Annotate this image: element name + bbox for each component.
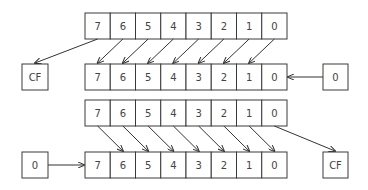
shr-result-bit-4: 4 bbox=[161, 152, 186, 178]
shl-result-bit-2-label: 2 bbox=[221, 72, 227, 83]
arrow-shl-bit bbox=[173, 39, 198, 63]
shl-source-bit-5: 5 bbox=[136, 13, 161, 39]
shr-source-bit-1: 1 bbox=[237, 100, 262, 126]
shl-source-bit-0-label: 0 bbox=[271, 21, 277, 32]
shl-result-bit-0: 0 bbox=[262, 64, 287, 90]
shr-source-bit-7-label: 7 bbox=[94, 108, 100, 119]
shl-source-bit-5-label: 5 bbox=[145, 21, 151, 32]
shr-fill-zero-label: 0 bbox=[32, 160, 38, 171]
shl-result-bit-7: 7 bbox=[85, 64, 110, 90]
shl-source-bit-0: 0 bbox=[262, 13, 287, 39]
shl-source-bit-2: 2 bbox=[211, 13, 236, 39]
arrow-shr-lsb-to-cf bbox=[274, 126, 335, 151]
shr-result-bit-0: 0 bbox=[262, 152, 287, 178]
arrow-shl-msb-to-cf bbox=[35, 39, 98, 63]
shr-result-bit-1-label: 1 bbox=[246, 160, 252, 171]
shr-result-bit-0-label: 0 bbox=[271, 160, 277, 171]
arrow-shl-bit bbox=[224, 39, 249, 63]
shl-result-bit-3-label: 3 bbox=[195, 72, 201, 83]
shl-source-bit-7: 7 bbox=[85, 13, 110, 39]
arrow-shr-bit bbox=[123, 126, 148, 151]
shl-source-bit-2-label: 2 bbox=[221, 21, 227, 32]
shl-result-bit-5-label: 5 bbox=[145, 72, 151, 83]
arrow-shr-bit bbox=[173, 126, 198, 151]
shr-result-bit-6-label: 6 bbox=[120, 160, 126, 171]
shl-result-bit-3: 3 bbox=[186, 64, 211, 90]
shr-result-bit-2: 2 bbox=[211, 152, 236, 178]
arrow-shr-bit bbox=[148, 126, 173, 151]
shl-source-bit-3-label: 3 bbox=[195, 21, 201, 32]
arrow-shr-bit bbox=[224, 126, 249, 151]
shr-result-bit-3: 3 bbox=[186, 152, 211, 178]
shr-source-bit-4: 4 bbox=[161, 100, 186, 126]
arrow-shl-bit bbox=[199, 39, 224, 63]
shl-result-bit-1-label: 1 bbox=[246, 72, 252, 83]
shl-source-bit-6-label: 6 bbox=[120, 21, 126, 32]
shr-source-bit-2-label: 2 bbox=[221, 108, 227, 119]
shr-result-bit-2-label: 2 bbox=[221, 160, 227, 171]
shr-result-bit-6: 6 bbox=[110, 152, 135, 178]
shr-source-bit-7: 7 bbox=[85, 100, 110, 126]
shl-source-bit-4-label: 4 bbox=[170, 21, 176, 32]
shl-source-bit-1-label: 1 bbox=[246, 21, 252, 32]
shr-source-bit-4-label: 4 bbox=[170, 108, 176, 119]
shr-source-bit-5-label: 5 bbox=[145, 108, 151, 119]
shr-source-bit-2: 2 bbox=[211, 100, 236, 126]
shl-result-bit-7-label: 7 bbox=[94, 72, 100, 83]
shl-result-bit-0-label: 0 bbox=[271, 72, 277, 83]
shr-result-bit-7: 7 bbox=[85, 152, 110, 178]
shr-source-bit-0: 0 bbox=[262, 100, 287, 126]
shl-result-bit-1: 1 bbox=[237, 64, 262, 90]
shl-carry-flag-label: CF bbox=[29, 72, 42, 83]
shl-result-bit-6: 6 bbox=[110, 64, 135, 90]
shl-result-bit-6-label: 6 bbox=[120, 72, 126, 83]
shl-source-bit-3: 3 bbox=[186, 13, 211, 39]
shr-source-bit-6: 6 bbox=[110, 100, 135, 126]
shift-diagram: 7654321076543210CF076543210765432100CF bbox=[0, 0, 368, 190]
shl-result-bit-2: 2 bbox=[211, 64, 236, 90]
shr-carry-flag: CF bbox=[323, 152, 348, 178]
arrow-shr-bit bbox=[98, 126, 123, 151]
shl-result-bit-5: 5 bbox=[136, 64, 161, 90]
shl-result-bit-4-label: 4 bbox=[170, 72, 176, 83]
shr-source-bit-6-label: 6 bbox=[120, 108, 126, 119]
shl-source-bit-6: 6 bbox=[110, 13, 135, 39]
arrow-shl-bit bbox=[148, 39, 173, 63]
shr-source-bit-5: 5 bbox=[136, 100, 161, 126]
shr-result-bit-5: 5 bbox=[136, 152, 161, 178]
shl-result-bit-4: 4 bbox=[161, 64, 186, 90]
shr-result-bit-5-label: 5 bbox=[145, 160, 151, 171]
shr-source-bit-0-label: 0 bbox=[271, 108, 277, 119]
shl-fill-zero-label: 0 bbox=[332, 72, 338, 83]
shr-result-bit-3-label: 3 bbox=[195, 160, 201, 171]
shr-source-bit-1-label: 1 bbox=[246, 108, 252, 119]
shr-source-bit-3-label: 3 bbox=[195, 108, 201, 119]
arrow-shr-bit bbox=[249, 126, 274, 151]
shr-result-bit-4-label: 4 bbox=[170, 160, 176, 171]
arrow-shr-bit bbox=[199, 126, 224, 151]
shr-source-bit-3: 3 bbox=[186, 100, 211, 126]
shl-fill-zero: 0 bbox=[323, 64, 348, 90]
shl-source-bit-7-label: 7 bbox=[94, 21, 100, 32]
shr-result-bit-7-label: 7 bbox=[94, 160, 100, 171]
arrow-shl-bit bbox=[123, 39, 148, 63]
shr-fill-zero: 0 bbox=[22, 152, 48, 178]
shr-result-bit-1: 1 bbox=[237, 152, 262, 178]
shl-source-bit-4: 4 bbox=[161, 13, 186, 39]
shr-carry-flag-label: CF bbox=[329, 160, 342, 171]
shl-source-bit-1: 1 bbox=[237, 13, 262, 39]
arrow-shl-bit bbox=[98, 39, 123, 63]
shl-carry-flag: CF bbox=[22, 64, 48, 90]
arrow-shl-bit bbox=[249, 39, 274, 63]
